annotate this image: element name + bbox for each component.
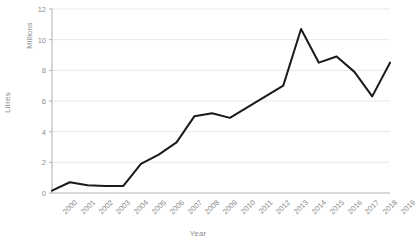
x-tick-label: 2008 bbox=[203, 198, 221, 216]
x-tick-label: 2018 bbox=[381, 198, 399, 216]
x-tick-label: 2010 bbox=[239, 198, 257, 216]
x-tick-label: 2014 bbox=[310, 198, 328, 216]
x-tick-label: 2012 bbox=[274, 198, 292, 216]
x-tick-label: 2007 bbox=[185, 198, 203, 216]
x-tick-label: 2003 bbox=[114, 198, 132, 216]
x-tick-label: 2001 bbox=[79, 198, 97, 216]
x-tick-label: 2000 bbox=[61, 198, 79, 216]
x-tick-label: 2013 bbox=[292, 198, 310, 216]
x-tick-label: 2015 bbox=[328, 198, 346, 216]
x-tick-label: 2002 bbox=[96, 198, 114, 216]
x-tick-label: 2019 bbox=[399, 198, 417, 216]
y-axis-unit-label: Millions bbox=[25, 16, 34, 56]
x-tick-label: 2006 bbox=[168, 198, 186, 216]
x-tick-label: 2005 bbox=[150, 198, 168, 216]
x-tick-label: 2009 bbox=[221, 198, 239, 216]
y-axis-title: Litres bbox=[3, 83, 12, 123]
x-tick-label: 2016 bbox=[346, 198, 364, 216]
x-tick-label: 2011 bbox=[256, 198, 274, 216]
x-tick-label: 2004 bbox=[132, 198, 150, 216]
x-tick-label: 2017 bbox=[363, 198, 381, 216]
x-axis-title: Year bbox=[0, 229, 396, 238]
